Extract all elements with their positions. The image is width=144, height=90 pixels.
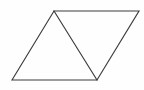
- figure-canvas: [0, 0, 144, 90]
- geometry-diagram: [0, 0, 144, 90]
- internal-diagonal-line: [54, 11, 97, 80]
